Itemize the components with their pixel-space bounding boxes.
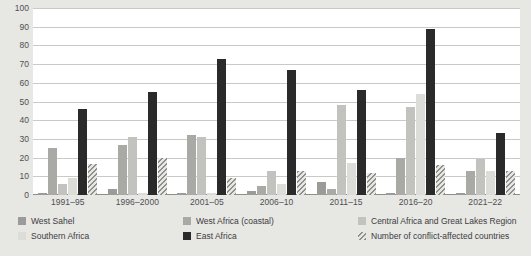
- legend-item[interactable]: Central Africa and Great Lakes Region: [358, 216, 523, 226]
- bar-group-2016-20: [381, 8, 451, 195]
- legend-swatch-icon: [183, 232, 191, 240]
- bar[interactable]: [227, 178, 236, 195]
- x-axis-tick-label: 2006–10: [242, 197, 312, 211]
- bar[interactable]: [187, 135, 196, 195]
- bar[interactable]: [197, 137, 206, 195]
- y-axis-tick-10: 10: [20, 171, 29, 181]
- legend-item[interactable]: West Africa (coastal): [183, 216, 358, 226]
- x-axis-tick-label: 2001–05: [172, 197, 242, 211]
- legend-label: East Africa: [196, 231, 237, 241]
- bar[interactable]: [416, 94, 425, 195]
- x-axis-tick-label: 1991–95: [33, 197, 103, 211]
- bar[interactable]: [88, 164, 97, 195]
- bar[interactable]: [357, 90, 366, 195]
- bar[interactable]: [148, 92, 157, 195]
- bar[interactable]: [317, 182, 326, 195]
- bar[interactable]: [128, 137, 137, 195]
- bar[interactable]: [68, 178, 77, 195]
- bar[interactable]: [406, 107, 415, 195]
- bar[interactable]: [48, 148, 57, 195]
- legend-label: Southern Africa: [31, 231, 89, 241]
- bar[interactable]: [367, 173, 376, 195]
- legend-swatch-icon: [358, 217, 366, 225]
- x-axis-tick-label: 2021–22: [450, 197, 520, 211]
- bar-group-2011-15: [311, 8, 381, 195]
- legend-swatch-icon: [358, 232, 366, 240]
- y-axis-tick-50: 50: [20, 97, 29, 107]
- y-axis-tick-40: 40: [20, 115, 29, 125]
- legend-item[interactable]: West Sahel: [18, 216, 183, 226]
- x-axis-tick-label: 1996–2000: [103, 197, 173, 211]
- bar[interactable]: [386, 193, 395, 195]
- y-axis-labels: 0102030405060708090100: [0, 8, 29, 195]
- legend-item[interactable]: Number of conflict-affected countries: [358, 231, 523, 241]
- legend-label: Central Africa and Great Lakes Region: [371, 216, 517, 226]
- bar[interactable]: [118, 145, 127, 195]
- bar[interactable]: [466, 171, 475, 195]
- bar[interactable]: [217, 59, 226, 196]
- bar-group-2001-05: [172, 8, 242, 195]
- y-axis-tick-80: 80: [20, 40, 29, 50]
- bar[interactable]: [207, 193, 216, 195]
- bar[interactable]: [78, 109, 87, 195]
- legend-label: West Africa (coastal): [196, 216, 274, 226]
- y-axis-tick-90: 90: [20, 22, 29, 32]
- bar[interactable]: [337, 105, 346, 195]
- legend-label: West Sahel: [31, 216, 74, 226]
- bar[interactable]: [267, 171, 276, 195]
- bar[interactable]: [396, 158, 405, 195]
- legend-item[interactable]: East Africa: [183, 231, 358, 241]
- legend-swatch-icon: [183, 217, 191, 225]
- bar[interactable]: [247, 191, 256, 195]
- bar[interactable]: [426, 29, 435, 195]
- bar[interactable]: [347, 163, 356, 195]
- bar[interactable]: [496, 133, 505, 195]
- y-axis-tick-0: 0: [24, 190, 29, 200]
- y-axis-tick-20: 20: [20, 153, 29, 163]
- legend-label: Number of conflict-affected countries: [371, 231, 509, 241]
- y-axis-tick-30: 30: [20, 134, 29, 144]
- bar-group-1991-95: [33, 8, 103, 195]
- x-axis-tick-label: 2011–15: [311, 197, 381, 211]
- bar-group-2021-22: [450, 8, 520, 195]
- bar[interactable]: [506, 171, 515, 195]
- x-axis-labels: 1991–951996–20002001–052006–102011–15201…: [33, 197, 520, 211]
- bar[interactable]: [486, 171, 495, 195]
- bar[interactable]: [38, 193, 47, 195]
- bar[interactable]: [277, 184, 286, 195]
- bar[interactable]: [297, 171, 306, 195]
- y-axis-tick-60: 60: [20, 78, 29, 88]
- legend-swatch-icon: [18, 217, 26, 225]
- legend-swatch-icon: [18, 232, 26, 240]
- chart-legend: West SahelWest Africa (coastal)Central A…: [18, 216, 523, 241]
- bar-groups: [33, 8, 520, 195]
- bar-group-2006-10: [242, 8, 312, 195]
- bar[interactable]: [456, 193, 465, 195]
- x-axis-tick-label: 2016–20: [381, 197, 451, 211]
- bar[interactable]: [436, 165, 445, 195]
- bar[interactable]: [327, 189, 336, 195]
- bar-chart: 0102030405060708090100 1991–951996–20002…: [0, 0, 531, 256]
- bar[interactable]: [58, 184, 67, 195]
- y-axis-tick-70: 70: [20, 59, 29, 69]
- bar-group-1996-2000: [103, 8, 173, 195]
- bar[interactable]: [257, 186, 266, 195]
- bar[interactable]: [476, 159, 485, 195]
- bar[interactable]: [177, 193, 186, 195]
- bar[interactable]: [108, 189, 117, 195]
- bar[interactable]: [138, 193, 147, 195]
- y-axis-tick-100: 100: [15, 3, 29, 13]
- bar[interactable]: [287, 70, 296, 195]
- legend-item[interactable]: Southern Africa: [18, 231, 183, 241]
- bar[interactable]: [158, 158, 167, 195]
